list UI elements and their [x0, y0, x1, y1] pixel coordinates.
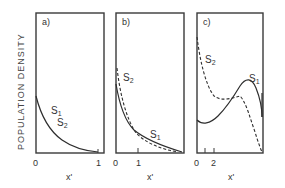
panel-c-xtick-2: 2 [211, 158, 216, 168]
y-axis-label: POPULATION DENSITY [16, 33, 26, 150]
population-density-figure: POPULATION DENSITY a) S1 S2 0 1 x' b) S2… [0, 0, 285, 188]
panel-a: a) S1 S2 0 1 x' [33, 13, 104, 182]
panel-a-xtick-1: 1 [96, 158, 101, 168]
panel-c-s2-label: S2 [205, 54, 216, 66]
panel-a-xlabel: x' [66, 172, 73, 182]
panel-b-label: b) [122, 17, 130, 27]
panel-b-xtick-1: 1 [136, 158, 141, 168]
panel-c-xlabel: x' [228, 172, 235, 182]
panel-b-s1-label: S1 [150, 129, 161, 141]
panel-b: b) S2 S1 0 1 x' [113, 13, 184, 182]
panel-b-curve-s1 [116, 84, 182, 152]
panel-c-s1-label: S1 [249, 73, 260, 85]
panel-a-s1-label: S1 [51, 105, 62, 117]
panel-c-label: c) [203, 17, 211, 27]
panel-a-s2-label: S2 [57, 117, 68, 129]
panel-a-xtick-0: 0 [33, 158, 38, 168]
panel-a-label: a) [42, 17, 50, 27]
panel-c-xtick-0: 0 [194, 158, 199, 168]
panel-c-curve-s1 [197, 80, 262, 123]
panel-b-xlabel: x' [147, 172, 154, 182]
panel-a-frame [36, 13, 104, 153]
panel-c: c) S2 S1 0 2 x' [194, 13, 263, 182]
panel-b-xtick-0: 0 [113, 158, 118, 168]
panel-b-s2-label: S2 [123, 72, 134, 84]
